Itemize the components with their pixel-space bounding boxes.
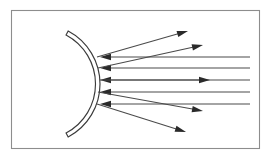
reflected-ray-lower-mid-arrowhead-icon: [192, 106, 203, 112]
ray-diagram-canvas: [0, 0, 271, 158]
reflected-ray-bottom-shaft: [97, 104, 177, 129]
reflected-ray-group: [97, 31, 210, 132]
reflected-ray-axis-arrowhead-icon: [199, 77, 210, 83]
reflected-ray-lower-mid-shaft: [98, 92, 194, 109]
concave-mirror: [66, 31, 100, 137]
reflected-ray-top-arrowhead-icon: [177, 31, 188, 37]
reflected-ray-upper-mid-arrowhead-icon: [192, 44, 203, 50]
ray-diagram-figure: [0, 0, 271, 158]
reflected-ray-bottom-arrowhead-icon: [175, 126, 186, 132]
